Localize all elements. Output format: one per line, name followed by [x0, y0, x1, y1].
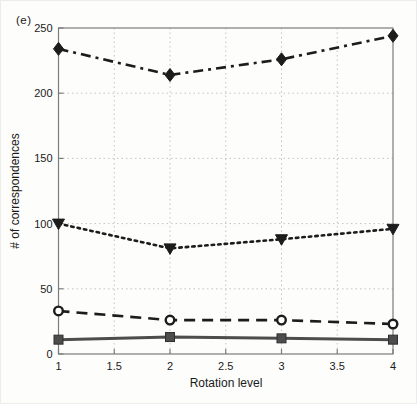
- y-tick-label: 150: [34, 152, 52, 164]
- x-tick-label: 2: [167, 360, 173, 372]
- y-tick-label: 0: [46, 348, 52, 360]
- x-tick-label: 1.5: [107, 360, 122, 372]
- figure-panel: 11.522.533.54050100150200250 (e) # of co…: [0, 0, 417, 404]
- y-tick-label: 100: [34, 218, 52, 230]
- marker-square: [277, 334, 286, 343]
- x-tick-label: 3: [278, 360, 284, 372]
- x-tick-label: 2.5: [218, 360, 233, 372]
- x-tick-label: 1: [55, 360, 61, 372]
- marker-square: [166, 333, 175, 342]
- marker-diamond: [277, 53, 287, 66]
- marker-square: [54, 335, 63, 344]
- x-tick-label: 4: [390, 360, 396, 372]
- marker-circle-open: [166, 316, 175, 325]
- marker-diamond: [165, 68, 175, 81]
- marker-diamond: [388, 29, 398, 42]
- x-axis-label: Rotation level: [190, 376, 263, 390]
- marker-triangle-down: [53, 219, 65, 230]
- x-tick-label: 3.5: [330, 360, 345, 372]
- marker-circle-open: [389, 320, 398, 329]
- y-tick-label: 250: [34, 22, 52, 34]
- marker-square: [389, 335, 398, 344]
- y-axis-label: # of correspondences: [8, 133, 22, 248]
- chart-canvas: 11.522.533.54050100150200250: [1, 1, 417, 404]
- marker-circle-open: [54, 307, 63, 316]
- panel-label: (e): [16, 14, 32, 26]
- marker-circle-open: [277, 316, 286, 325]
- y-tick-label: 200: [34, 87, 52, 99]
- y-tick-label: 50: [40, 283, 52, 295]
- marker-diamond: [54, 42, 64, 55]
